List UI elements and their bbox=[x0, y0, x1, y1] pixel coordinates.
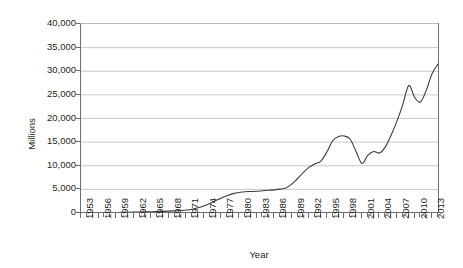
x-axis-tick-label: 1962 bbox=[137, 185, 148, 219]
x-axis-tick-label: 1989 bbox=[295, 185, 306, 219]
x-axis-tick-label: 1983 bbox=[260, 185, 271, 219]
x-axis-tick-label: 2004 bbox=[382, 185, 393, 219]
x-axis-tick-label: 1995 bbox=[330, 185, 341, 219]
x-axis-tick-label: 1986 bbox=[277, 185, 288, 219]
x-axis-tick-label: 1953 bbox=[84, 185, 95, 219]
x-axis-tick-labels: 1953195619591962196519681971197419771980… bbox=[0, 0, 463, 268]
x-axis-title: Year bbox=[80, 249, 438, 261]
x-axis-tick-label: 1965 bbox=[154, 185, 165, 219]
x-axis-tick-label: 1971 bbox=[189, 185, 200, 219]
x-axis-tick-label: 1992 bbox=[312, 185, 323, 219]
x-axis-tick-label: 1956 bbox=[102, 185, 113, 219]
x-axis-tick-label: 2001 bbox=[365, 185, 376, 219]
x-axis-tick-label: 1974 bbox=[207, 185, 218, 219]
x-axis-tick-label: 1977 bbox=[224, 185, 235, 219]
x-axis-tick-label: 1980 bbox=[242, 185, 253, 219]
x-axis-tick-label: 1968 bbox=[172, 185, 183, 219]
x-axis-tick-label: 2013 bbox=[435, 185, 446, 219]
x-axis-tick-label: 2010 bbox=[418, 185, 429, 219]
x-axis-tick-label: 1998 bbox=[347, 185, 358, 219]
x-axis-tick-label: 2007 bbox=[400, 185, 411, 219]
line-chart: Millions 05,00010,00015,00020,00025,0003… bbox=[0, 0, 463, 268]
x-axis-tick-label: 1959 bbox=[119, 185, 130, 219]
